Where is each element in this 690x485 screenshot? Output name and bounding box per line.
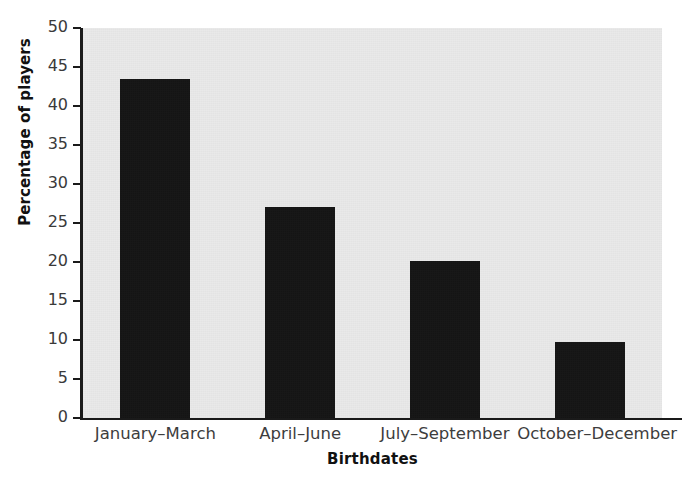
y-axis-tick [73,339,81,341]
y-axis-tick-label: 5 [28,370,68,386]
x-axis-tick-labels: January–MarchApril–JuneJuly–SeptemberOct… [83,424,662,450]
y-axis-tick [73,27,81,29]
x-axis-tick-label: April–June [228,424,373,444]
bar [120,79,190,418]
y-axis-tick [73,66,81,68]
y-axis-tick-label: 50 [28,19,68,35]
y-axis-tick-label: 0 [28,409,68,425]
y-axis-line [80,28,83,420]
x-axis-tick-label: January–March [83,424,228,444]
y-axis-tick-label: 10 [28,331,68,347]
y-axis-tick [73,183,81,185]
y-axis-tick-label: 30 [28,175,68,191]
bar [410,261,480,418]
y-axis-tick-label: 45 [28,58,68,74]
bar [265,207,335,418]
plot-area [83,28,662,418]
y-axis-tick-label: 35 [28,136,68,152]
y-axis-tick [73,378,81,380]
y-axis-tick [73,105,81,107]
x-axis-title: Birthdates [83,450,662,468]
y-axis-tick [73,222,81,224]
x-axis-tick-label: July–September [373,424,518,444]
y-axis-tick [73,261,81,263]
y-axis-tick-label: 25 [28,214,68,230]
bar [555,342,625,418]
y-axis-tick [73,300,81,302]
y-axis-tick-label: 20 [28,253,68,269]
x-axis-line [80,418,682,420]
y-axis-tick-label: 40 [28,97,68,113]
y-axis-tick-labels: 05101520253035404550 [22,0,68,485]
bar-chart-figure: Percentage of players 051015202530354045… [0,0,690,485]
y-axis-tick [73,144,81,146]
x-axis-tick-label: October–December [517,424,662,444]
y-axis-tick [73,417,81,419]
y-axis-tick-label: 15 [28,292,68,308]
